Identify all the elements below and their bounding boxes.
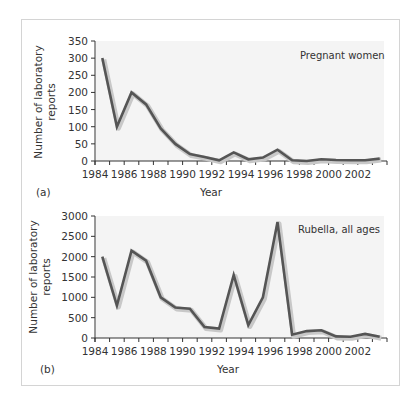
x-tick-label: 2002 [344, 168, 371, 180]
x-tick-label: 1990 [169, 168, 196, 180]
y-axis-a: 050100150200250300350 [68, 35, 95, 167]
x-tick-label: 1994 [228, 168, 255, 180]
y-tick-label: 200 [68, 86, 88, 98]
y-tick-label: 300 [68, 52, 88, 64]
x-tick-label: 2000 [315, 345, 342, 357]
chart-panel-a: 050100150200250300350 198419861988199019… [32, 35, 387, 198]
series-label-a: Pregnant women [300, 50, 385, 61]
x-tick-label: 1994 [228, 345, 255, 357]
y-tick-label: 1000 [61, 291, 88, 303]
y-tick-label: 0 [81, 155, 88, 167]
chart-panel-b: 050010001500200025003000 198419861988199… [27, 210, 387, 375]
x-axis-title-a: Year [199, 186, 223, 198]
panel-letter-b: (b) [40, 363, 55, 375]
x-tick-label: 1996 [257, 345, 284, 357]
y-tick-label: 350 [68, 35, 88, 47]
x-tick-label: 1986 [111, 168, 138, 180]
figure-svg: 050100150200250300350 198419861988199019… [0, 0, 417, 404]
x-tick-label: 1984 [82, 168, 109, 180]
y-tick-label: 2000 [61, 251, 88, 263]
x-tick-label: 1988 [140, 168, 167, 180]
x-tick-label: 1996 [257, 168, 284, 180]
y-axis-title-a-line1: Number of laboratory [32, 45, 44, 158]
x-tick-label: 1998 [286, 168, 313, 180]
y-tick-label: 100 [68, 121, 88, 133]
y-tick-label: 500 [68, 312, 88, 324]
y-axis-b: 050010001500200025003000 [61, 210, 95, 344]
x-tick-label: 1990 [169, 345, 196, 357]
x-tick-label: 1992 [198, 345, 225, 357]
x-tick-label: 1992 [198, 168, 225, 180]
x-axis-b: 1984198619881990199219941996199820002002 [82, 338, 387, 357]
x-tick-label: 1984 [82, 345, 109, 357]
x-tick-label: 1988 [140, 345, 167, 357]
y-axis-title-b-line2: reports [40, 258, 52, 296]
y-axis-title-a-line2: reports [45, 83, 57, 121]
y-tick-label: 3000 [61, 210, 88, 222]
x-tick-label: 1998 [286, 345, 313, 357]
y-tick-label: 50 [75, 138, 88, 150]
x-axis-title-b: Year [216, 363, 240, 375]
y-tick-label: 250 [68, 69, 88, 81]
x-tick-label: 2002 [344, 345, 371, 357]
panel-letter-a: (a) [36, 186, 51, 198]
series-label-b: Rubella, all ages [298, 224, 380, 235]
x-tick-label: 2000 [315, 168, 342, 180]
y-tick-label: 1500 [61, 271, 88, 283]
y-tick-label: 0 [81, 332, 88, 344]
y-tick-label: 2500 [61, 230, 88, 242]
y-axis-title-b-line1: Number of laboratory [27, 220, 39, 333]
x-tick-label: 1986 [111, 345, 138, 357]
y-tick-label: 150 [68, 104, 88, 116]
